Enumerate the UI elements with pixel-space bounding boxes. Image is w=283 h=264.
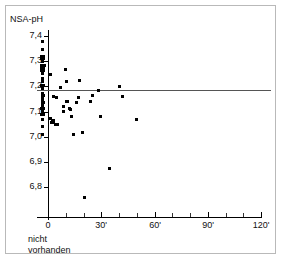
y-tick-label: 7,0 <box>8 132 42 141</box>
data-point <box>77 96 80 99</box>
x-tick-label: 30' <box>83 221 119 230</box>
category-note-line1: nicht <box>28 234 71 245</box>
data-point <box>42 113 45 116</box>
data-point <box>69 108 72 111</box>
data-point <box>41 48 44 51</box>
data-point <box>135 118 138 121</box>
y-tick-label-wrap: 7,2 <box>8 81 42 90</box>
x-minor-tick <box>190 213 191 217</box>
data-point <box>91 94 94 97</box>
data-point <box>78 79 81 82</box>
data-point <box>49 73 52 76</box>
data-point <box>55 96 58 99</box>
y-tick <box>44 187 49 188</box>
x-tick-label: 90' <box>190 221 226 230</box>
data-point <box>41 118 44 121</box>
x-tick-label: 0 <box>30 221 66 230</box>
y-tick <box>44 137 49 138</box>
data-point <box>121 95 124 98</box>
x-tick <box>208 212 209 217</box>
data-point <box>89 100 92 103</box>
y-axis-title: NSA-pH <box>10 14 43 24</box>
y-tick-label: 6,9 <box>8 157 42 166</box>
y-tick-label-wrap: 7,1 <box>8 107 42 116</box>
data-point <box>41 72 44 75</box>
x-tick <box>261 212 262 217</box>
data-point <box>75 101 78 104</box>
data-point <box>62 105 65 108</box>
data-point <box>41 40 44 43</box>
data-point <box>72 133 75 136</box>
x-tick <box>101 212 102 217</box>
x-minor-tick <box>243 213 244 217</box>
y-tick-label-wrap: 6,9 <box>8 157 42 166</box>
reference-line-7-2 <box>37 90 271 91</box>
y-tick <box>44 162 49 163</box>
y-axis-line <box>48 30 49 220</box>
y-tick-label-wrap: 7,0 <box>8 132 42 141</box>
x-tick-label: 60' <box>137 221 173 230</box>
x-tick-label: 120' <box>243 221 279 230</box>
data-point <box>64 68 67 71</box>
chart-figure: NSA-pH 7,47,37,27,17,06,96,8 030'60'90'1… <box>0 0 283 264</box>
y-tick-label-wrap: 7,3 <box>8 56 42 65</box>
data-point <box>41 125 44 128</box>
x-minor-tick <box>66 213 67 217</box>
y-tick-label: 7,3 <box>8 56 42 65</box>
data-point <box>118 85 121 88</box>
x-minor-tick <box>84 213 85 217</box>
data-point <box>41 60 44 63</box>
data-point <box>83 196 86 199</box>
x-tick <box>48 212 49 217</box>
data-point <box>62 110 65 113</box>
y-tick-label: 7,4 <box>8 31 42 40</box>
y-tick-label: 7,2 <box>8 81 42 90</box>
x-minor-tick <box>137 213 138 217</box>
data-point <box>70 115 73 118</box>
category-note-line2: vorhanden <box>28 245 71 256</box>
y-tick <box>44 61 49 62</box>
x-tick <box>155 212 156 217</box>
y-tick-label-wrap: 6,8 <box>8 182 42 191</box>
plot-area: NSA-pH 7,47,37,27,17,06,96,8 030'60'90'1… <box>0 0 283 264</box>
data-point <box>59 86 62 89</box>
data-point <box>99 115 102 118</box>
x-axis-line <box>37 217 262 218</box>
data-point <box>41 133 44 136</box>
data-point <box>66 100 69 103</box>
y-tick-label: 6,8 <box>8 182 42 191</box>
data-point <box>97 89 100 92</box>
y-tick-label-wrap: 7,4 <box>8 31 42 40</box>
data-point <box>81 131 84 134</box>
x-minor-tick <box>119 213 120 217</box>
x-minor-tick <box>172 213 173 217</box>
data-point <box>56 123 59 126</box>
data-point <box>41 80 44 83</box>
category-note: nicht vorhanden <box>28 234 71 256</box>
data-point <box>41 87 44 90</box>
data-point <box>65 80 68 83</box>
y-tick <box>44 36 49 37</box>
data-point <box>108 167 111 170</box>
y-tick-label: 7,1 <box>8 107 42 116</box>
x-minor-tick <box>226 213 227 217</box>
